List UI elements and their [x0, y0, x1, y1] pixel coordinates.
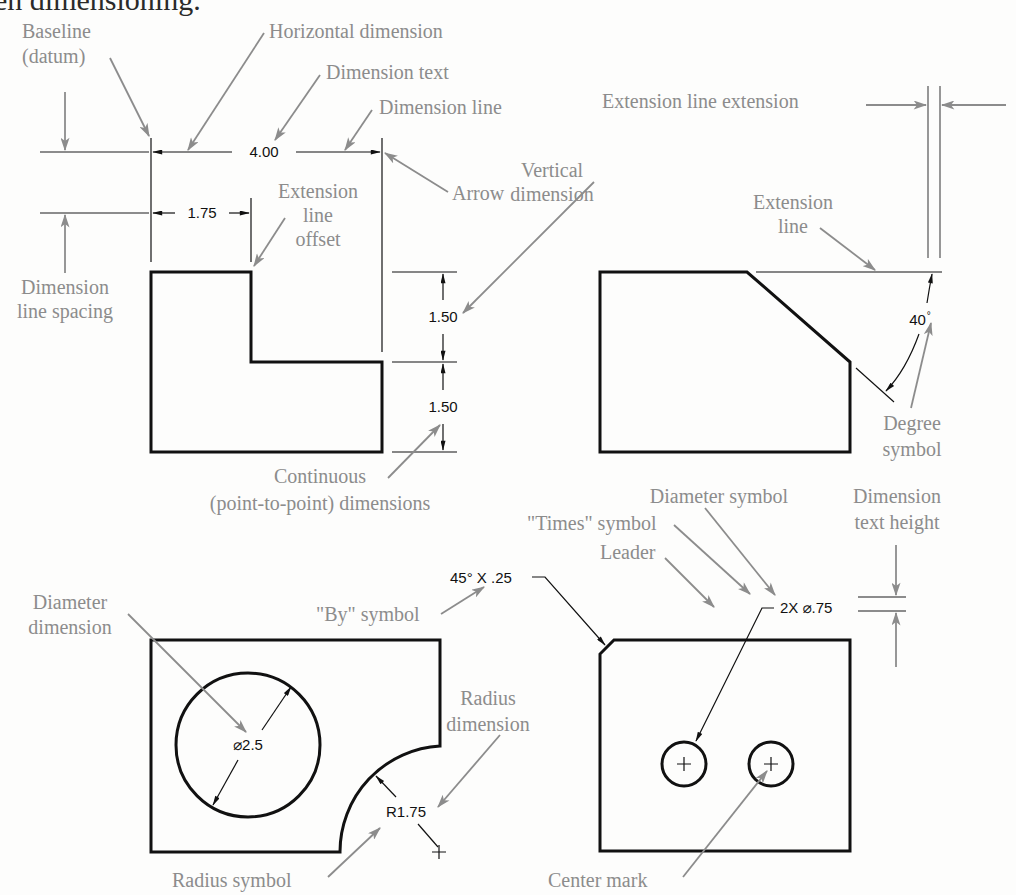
label-dimension-text: Dimension text	[326, 61, 449, 83]
figure-bottom-left: ⌀2.5 R1.75 Diameter dimension "By" symbo…	[28, 587, 529, 892]
l-shaped-part	[151, 272, 382, 452]
label-radius-dimension-2: dimension	[446, 713, 529, 735]
dimension-text-4-00: 4.00	[249, 143, 278, 160]
dimension-text-leader	[275, 75, 320, 140]
center-mark-right	[764, 757, 778, 771]
center-mark-left	[677, 757, 691, 771]
label-extension-line-extension: Extension line extension	[602, 90, 799, 112]
label-datum: (datum)	[22, 45, 85, 68]
label-vertical-dimension-1: Vertical	[521, 159, 584, 181]
diameter-symbol-leader	[705, 508, 775, 595]
chamfer-leader	[532, 577, 605, 645]
dimension-text-holes: 2X ⌀.75	[780, 599, 832, 616]
dimensioning-diagram: en dimensioning. 4.00 1.75 1.50 1.50 Bas…	[0, 0, 1016, 895]
label-extension-line-2: line	[778, 215, 808, 237]
extension-offset-leader	[254, 218, 285, 266]
part-with-radius	[151, 640, 440, 852]
label-leader: Leader	[600, 541, 656, 563]
title-fragment: en dimensioning.	[0, 0, 201, 16]
label-dimension-line-spacing-2: line spacing	[17, 300, 113, 323]
label-by-symbol: "By" symbol	[316, 603, 420, 626]
part-with-holes	[600, 640, 850, 851]
label-extension-offset-3: offset	[295, 228, 341, 250]
baseline-leader	[110, 58, 149, 136]
figure-top-right: 40° Extension line extension Extension l…	[600, 86, 1006, 461]
hole-leader	[696, 608, 774, 741]
label-radius-symbol: Radius symbol	[172, 869, 292, 892]
label-degree-symbol-2: symbol	[883, 438, 942, 461]
label-dimension-line-spacing-1: Dimension	[21, 276, 109, 298]
radius-arrow	[376, 776, 396, 797]
dimension-text-1-50-lower: 1.50	[428, 398, 457, 415]
dimension-text-angle: 40°	[909, 310, 931, 328]
leader-leader	[665, 558, 714, 607]
dimension-text-1-75: 1.75	[187, 204, 216, 221]
label-extension-offset-2: line	[303, 204, 333, 226]
label-diameter-dimension-2: dimension	[28, 616, 111, 638]
label-diameter-symbol: Diameter symbol	[650, 485, 789, 508]
label-horizontal-dimension: Horizontal dimension	[269, 20, 443, 42]
angle-arc-lower	[886, 334, 919, 391]
by-symbol-leader	[441, 587, 484, 614]
center-mark-leader	[683, 771, 767, 877]
dimension-text-1-50-upper: 1.50	[428, 308, 457, 325]
diagram-canvas: en dimensioning. 4.00 1.75 1.50 1.50 Bas…	[0, 0, 1016, 895]
label-dimension-text-height-1: Dimension	[853, 485, 941, 507]
dimension-text-chamfer: 45° X .25	[450, 569, 512, 586]
figure-top-left: 4.00 1.75 1.50 1.50 Baseline (datum) Hor…	[17, 20, 594, 515]
label-baseline: Baseline	[22, 20, 91, 42]
radius-line-to-center	[418, 824, 438, 847]
horizontal-dimension-leader	[188, 33, 264, 150]
degree-symbol-leader	[911, 323, 931, 408]
label-extension-offset-1: Extension	[278, 180, 358, 202]
angle-arc-upper	[927, 274, 932, 303]
label-continuous-1: Continuous	[274, 465, 366, 487]
radius-dimension-leader	[438, 735, 500, 807]
label-extension-line-1: Extension	[753, 191, 833, 213]
label-dimension-line: Dimension line	[379, 96, 502, 118]
chamfered-part	[600, 272, 850, 452]
label-dimension-text-height-2: text height	[855, 511, 940, 534]
diameter-dimension-leader	[128, 614, 246, 732]
label-diameter-dimension-1: Diameter	[33, 591, 108, 613]
dimension-text-radius: R1.75	[386, 803, 426, 820]
figure-bottom-right: 45° X .25 2X ⌀.75 Diameter symbol Dimens…	[450, 485, 941, 891]
dimension-line-leader	[345, 110, 372, 150]
times-symbol-leader	[674, 525, 750, 594]
label-arrow: Arrow	[452, 182, 505, 204]
label-continuous-2: (point-to-point) dimensions	[210, 492, 431, 515]
radius-center-mark	[432, 845, 446, 859]
diameter-arrow-up	[262, 687, 291, 730]
extension-line-angled	[856, 368, 894, 402]
extension-line-leader	[820, 228, 875, 270]
label-degree-symbol-1: Degree	[883, 412, 941, 435]
dimension-text-diameter: ⌀2.5	[233, 736, 263, 753]
label-times-symbol: "Times" symbol	[527, 512, 657, 535]
diameter-arrow-down	[213, 760, 238, 805]
label-radius-dimension-1: Radius	[460, 687, 516, 709]
arrow-leader	[385, 153, 448, 192]
label-center-mark: Center mark	[548, 869, 647, 891]
